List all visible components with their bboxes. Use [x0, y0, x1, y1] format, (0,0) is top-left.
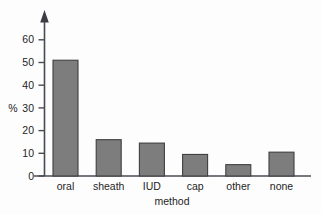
chart-canvas: 0 10 20 30 40 50 60 % oralsheathIUDcapot… — [0, 0, 321, 214]
y-tick-label-30: 30 — [22, 102, 34, 114]
x-tick-label-oral: oral — [57, 180, 75, 192]
y-axis-arrow-icon — [40, 10, 49, 23]
bar-cap — [183, 154, 208, 176]
y-axis-title: % — [8, 102, 17, 114]
y-axis — [40, 10, 49, 176]
y-tick-label-20: 20 — [22, 124, 34, 136]
y-tick-label-40: 40 — [22, 79, 34, 91]
category-labels: oralsheathIUDcapothernone — [57, 180, 294, 192]
bars-group — [53, 60, 294, 176]
y-tick-label-60: 60 — [22, 33, 34, 45]
bar-none — [269, 152, 294, 176]
x-tick-label-iud: IUD — [143, 180, 162, 192]
x-tick-label-none: none — [270, 180, 294, 192]
y-tick-label-50: 50 — [22, 56, 34, 68]
bar-iud — [139, 143, 164, 176]
y-tick-label-10: 10 — [22, 147, 34, 159]
y-tick-marks — [39, 40, 45, 176]
bar-sheath — [96, 140, 121, 176]
bar-other — [226, 165, 251, 176]
bar-chart: 0 10 20 30 40 50 60 % oralsheathIUDcapot… — [0, 0, 321, 214]
x-tick-label-other: other — [226, 180, 250, 192]
y-tick-labels: 0 10 20 30 40 50 60 — [22, 33, 34, 181]
y-tick-label-0: 0 — [28, 170, 34, 182]
x-tick-label-cap: cap — [187, 180, 204, 192]
x-axis-title: method — [154, 195, 189, 207]
x-tick-label-sheath: sheath — [93, 180, 125, 192]
bar-oral — [53, 60, 78, 176]
